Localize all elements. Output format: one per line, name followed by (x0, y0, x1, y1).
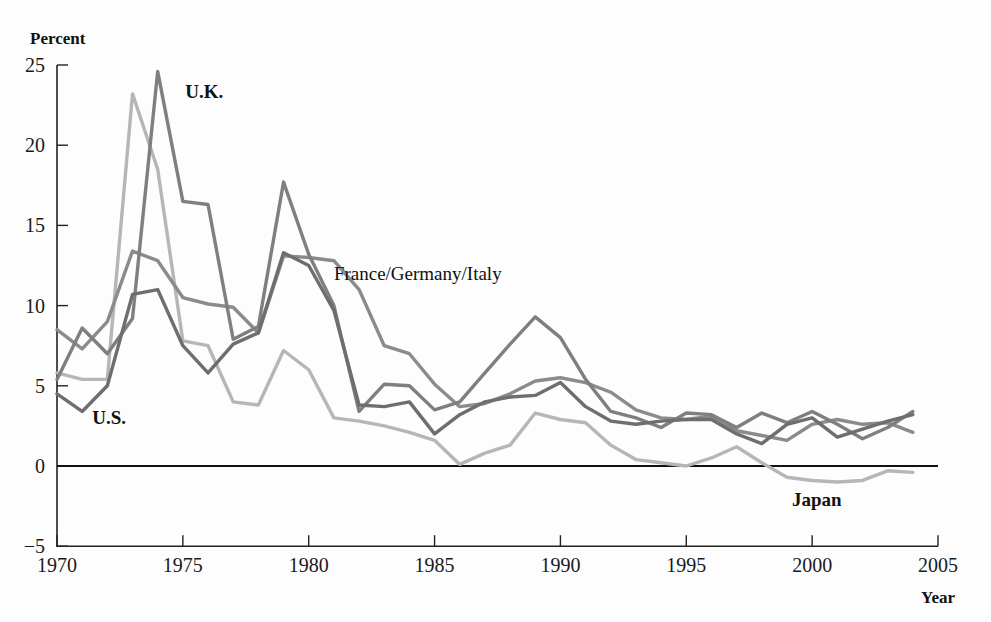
x-tick-label: 2000 (792, 554, 832, 576)
series-annotations: U.K.France/Germany/ItalyU.S.Japan (92, 81, 842, 509)
x-axis-tick-labels: 19701975198019851990199520002005 (37, 554, 958, 576)
x-tick-label: 1990 (540, 554, 580, 576)
series-label: Japan (792, 489, 842, 510)
x-tick-label: 1980 (289, 554, 329, 576)
series-label: U.K. (185, 81, 223, 102)
axis-spine (57, 65, 938, 546)
y-axis-tick-labels: −50510152025 (24, 54, 45, 557)
x-tick-label: 1975 (163, 554, 203, 576)
series-line (57, 94, 913, 482)
line-chart: −50510152025 197019751980198519901995200… (0, 0, 991, 622)
axis-lines (57, 65, 938, 546)
chart-container: −50510152025 197019751980198519901995200… (0, 0, 991, 622)
y-tick-label: 0 (35, 455, 45, 477)
x-tick-label: 1995 (666, 554, 706, 576)
series-line (57, 71, 913, 438)
y-tick-label: 25 (25, 54, 45, 76)
x-tick-label: 1985 (415, 554, 455, 576)
series-label: U.S. (92, 407, 126, 428)
x-axis-title: Year (921, 588, 955, 607)
y-tick-label: 20 (25, 134, 45, 156)
y-axis-title: Percent (30, 29, 86, 48)
y-tick-label: 10 (25, 295, 45, 317)
y-tick-label: 15 (25, 214, 45, 236)
x-tick-label: 2005 (918, 554, 958, 576)
series-label: France/Germany/Italy (334, 263, 502, 284)
tick-marks (57, 65, 938, 546)
x-tick-label: 1970 (37, 554, 77, 576)
y-tick-label: 5 (35, 375, 45, 397)
